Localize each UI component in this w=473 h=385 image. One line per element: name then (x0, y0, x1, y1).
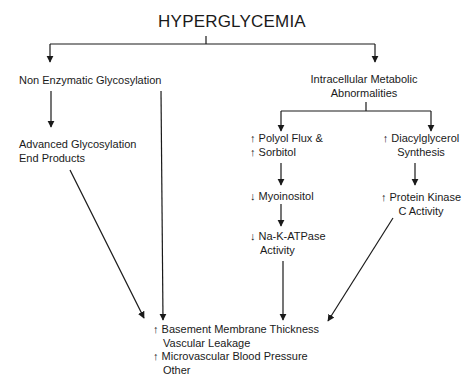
node-age-line1: Advanced Glycosylation (19, 137, 136, 151)
node-polyol-line1: ↑ Polyol Flux & (250, 131, 323, 145)
node-polyol-line2: ↑ Sorbitol (250, 145, 323, 159)
outcomes-list: ↑ Basement Membrane Thickness Vascular L… (153, 323, 319, 377)
node-na-k-atpase: ↓ Na-K-ATPase Activity (250, 229, 326, 257)
node-polyol-flux: ↑ Polyol Flux & ↑ Sorbitol (250, 131, 323, 159)
node-pkc-line2: C Activity (378, 204, 464, 218)
node-intracellular-line1: Intracellular Metabolic (306, 72, 422, 86)
node-intracellular-line2: Abnormalities (306, 86, 422, 100)
node-atpase-line1: ↓ Na-K-ATPase (250, 229, 326, 243)
outcome-basement-membrane: ↑ Basement Membrane Thickness (153, 323, 319, 337)
node-pkc-line1: ↑ Protein Kinase (378, 190, 464, 204)
arrow-age-to-outcomes (70, 170, 144, 318)
arrow-pkc-to-outcomes (328, 218, 393, 321)
node-dag-line2: Synthesis (378, 145, 464, 159)
outcome-other: Other (153, 364, 319, 378)
node-diacylglycerol: ↑ Diacylglycerol Synthesis (378, 131, 464, 159)
diagram-title: HYPERGLYCEMIA (0, 12, 464, 32)
node-myoinositol: ↓ Myoinositol (250, 189, 314, 203)
outcome-microvascular-pressure: ↑ Microvascular Blood Pressure (153, 350, 319, 364)
node-protein-kinase-c: ↑ Protein Kinase C Activity (378, 190, 464, 218)
node-intracellular-abnormalities: Intracellular Metabolic Abnormalities (306, 72, 422, 100)
node-non-enzymatic-glycosylation: Non Enzymatic Glycosylation (19, 73, 161, 87)
arrow-non-enzymatic-to-outcomes (161, 91, 163, 320)
node-advanced-glycosylation: Advanced Glycosylation End Products (19, 137, 136, 165)
outcome-vascular-leakage: Vascular Leakage (153, 337, 319, 351)
node-dag-line1: ↑ Diacylglycerol (378, 131, 464, 145)
node-atpase-line2: Activity (250, 243, 326, 257)
node-age-line2: End Products (19, 151, 136, 165)
